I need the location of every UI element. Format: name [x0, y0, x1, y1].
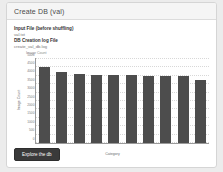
chart-y-tick-label: 500 — [29, 130, 36, 133]
chart-bar[interactable] — [39, 67, 50, 143]
chart-y-tick-label: 2500 — [27, 96, 36, 99]
chart-bar[interactable] — [74, 74, 85, 143]
chart-y-axis-label: Image Count — [17, 83, 21, 117]
chart-bars — [36, 59, 209, 143]
chart-y-tick-label: 1500 — [27, 113, 36, 116]
chart-bar[interactable] — [143, 76, 154, 143]
input-file-value[interactable]: val.txt — [14, 32, 209, 37]
panel-body: Input File (before shuffling) val.txt DB… — [7, 20, 216, 168]
image-count-chart: Image Count Image Count 0500100015002000… — [14, 52, 211, 155]
chart-bar[interactable] — [195, 80, 206, 144]
chart-y-tick-label: 3000 — [27, 88, 36, 91]
page-background: Create DB (val) Input File (before shuff… — [0, 0, 223, 172]
chart-bar[interactable] — [126, 75, 137, 143]
explore-db-button[interactable]: Explore the db — [14, 148, 60, 161]
chart-plot-area: 0500100015002000250030003500400045005000 — [35, 59, 209, 144]
page-title: Create DB (val) — [14, 8, 64, 15]
chart-y-tick-label: 2000 — [27, 104, 36, 107]
chart-bar[interactable] — [160, 76, 171, 143]
panel-header: Create DB (val) — [7, 3, 216, 20]
chart-y-tick-label: 3500 — [27, 79, 36, 82]
chart-bar[interactable] — [91, 75, 102, 143]
chart-y-tick-label: 5000 — [27, 54, 36, 57]
chart-bar[interactable] — [108, 75, 119, 143]
chart-y-tick-label: 1000 — [27, 121, 36, 124]
log-file-value[interactable]: create_val_db.log — [14, 44, 209, 49]
chart-y-tick-label: 4000 — [27, 71, 36, 74]
create-db-panel: Create DB (val) Input File (before shuff… — [6, 2, 217, 168]
chart-y-tick-label: 4500 — [27, 62, 36, 65]
chart-bar[interactable] — [56, 72, 67, 143]
chart-bar[interactable] — [178, 76, 189, 143]
